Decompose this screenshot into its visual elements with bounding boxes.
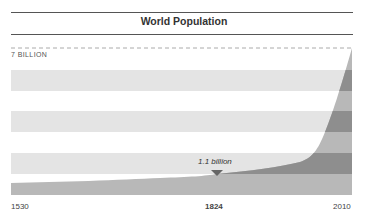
background-bands <box>11 70 352 174</box>
y-top-label: 7 BILLION <box>11 51 47 58</box>
x-label-highlight: 1824 <box>205 202 223 211</box>
x-label-start: 1530 <box>11 202 29 211</box>
population-area-chart <box>0 0 368 211</box>
annotation-label: 1.1 billion <box>198 157 232 166</box>
x-label-end: 2010 <box>333 202 351 211</box>
